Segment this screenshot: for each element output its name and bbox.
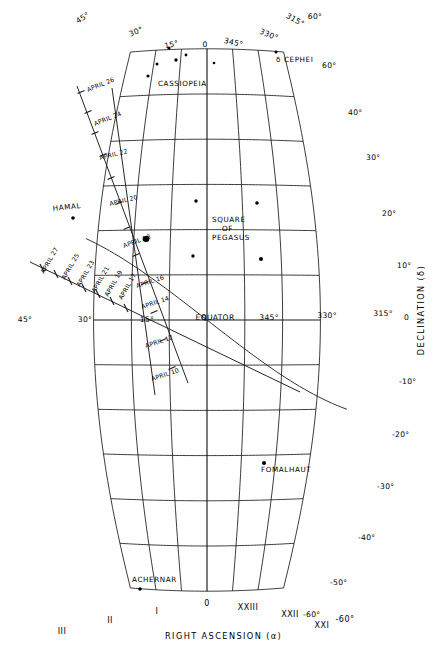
ra-tick-equator: 45° — [18, 315, 32, 324]
ra-tick-top: 15° — [163, 39, 179, 51]
dec-tick-right: -40° — [358, 533, 375, 542]
dec-tick-right: -30° — [377, 482, 394, 491]
ra-tick-equator: 315° — [373, 309, 393, 318]
date-tick — [82, 284, 86, 292]
date-track-lines — [30, 86, 300, 395]
ra-hour-tick: XXII — [281, 610, 299, 619]
dec-tick-right: 60° — [322, 61, 336, 70]
date-label: APRIL 23 — [75, 259, 96, 288]
ra-tick-top: 60° — [308, 12, 322, 21]
object-label: HAMAL — [52, 201, 81, 213]
date-label: APRIL 14 — [140, 294, 170, 310]
ra-tick-top: 45° — [74, 10, 91, 25]
date-label: APRIL 20 — [109, 193, 139, 207]
dec-tick-right: 20° — [382, 209, 396, 218]
ra-tick-top: 345° — [223, 36, 244, 49]
ra-tick-top: 0 — [202, 40, 207, 49]
ra-hour-tick: XXI — [315, 621, 330, 630]
dec-tick-right: 0 — [404, 313, 409, 322]
dec-tick-right: 40° — [348, 108, 362, 117]
star-marker — [275, 51, 278, 54]
date-tick — [124, 227, 131, 230]
dec-tick-right: -10° — [399, 377, 416, 386]
ra-tick-equator: 330° — [317, 311, 337, 320]
ra-hour-tick: XXIII — [238, 603, 259, 612]
dec-tick-right: -20° — [392, 430, 409, 439]
ra-hour-tick: III — [58, 627, 67, 636]
star-markers — [71, 46, 277, 590]
star-marker — [194, 199, 197, 202]
ecliptic-line — [86, 239, 347, 410]
y-axis-title: DECLINATION (δ) — [416, 265, 426, 355]
ra-tick-top: 30° — [128, 25, 145, 39]
ra-tick-equator: 15° — [140, 315, 154, 324]
object-label: CASSIOPEIA — [158, 79, 207, 88]
star-marker — [191, 254, 194, 257]
dec-tick-right: 10° — [397, 261, 411, 270]
date-label: APRIL 22 — [99, 147, 129, 161]
date-label: APRIL 10 — [150, 366, 180, 382]
star-marker — [185, 54, 188, 57]
star-chart-canvas: 45°30°15°0345°330°315°60°45°30°15°0EQUAT… — [0, 0, 446, 650]
ra-hour-tick: I — [156, 607, 159, 616]
ra-tick-equator: EQUATOR — [196, 313, 235, 322]
star-marker — [146, 74, 149, 77]
date-label: APRIL 16 — [135, 273, 165, 289]
star-marker — [259, 257, 263, 261]
object-label: SQUARE — [212, 215, 246, 224]
date-label: APRIL 25 — [60, 252, 81, 281]
ra-tick-equator: 345° — [259, 313, 279, 322]
date-tick — [85, 111, 92, 114]
star-marker — [156, 63, 159, 66]
ra-tick-top: 330° — [258, 27, 279, 43]
object-label: PEGASUS — [212, 233, 250, 242]
chart-labels: 45°30°15°0345°330°315°60°45°30°15°0EQUAT… — [18, 10, 426, 641]
date-label: APRIL 27 — [39, 246, 60, 275]
ra-hour-tick: -60° — [335, 615, 354, 624]
object-label: δ CEPHEI — [276, 55, 313, 64]
star-marker — [213, 62, 216, 65]
dec-tick-right: 30° — [366, 153, 380, 162]
star-marker — [174, 58, 177, 61]
ra-tick-top: 315° — [285, 11, 306, 29]
ra-tick-equator: 30° — [78, 315, 92, 324]
ecliptic — [86, 239, 347, 410]
star-marker — [138, 587, 142, 591]
date-label: APRIL 24 — [93, 110, 122, 127]
star-marker — [71, 216, 75, 220]
x-axis-title: RIGHT ASCENSION (α) — [165, 631, 282, 641]
date-tick — [151, 311, 158, 314]
star-marker — [255, 201, 259, 205]
ra-hour-tick: II — [107, 616, 113, 625]
star-chart-figure: 45°30°15°0345°330°315°60°45°30°15°0EQUAT… — [0, 0, 446, 650]
dec-tick-right: -50° — [330, 578, 347, 587]
dec-tick-right: -60° — [303, 610, 320, 619]
date-label: APRIL 26 — [86, 76, 115, 93]
object-label: FOMALHAUT — [261, 465, 311, 474]
object-label: ACHERNAR — [132, 575, 177, 584]
object-label: OF — [222, 224, 233, 233]
ra-hour-tick: 0 — [204, 599, 210, 608]
